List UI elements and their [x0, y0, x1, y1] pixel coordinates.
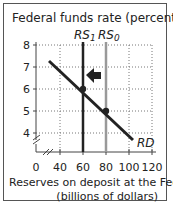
- equilibrium-point-initial: [103, 108, 109, 114]
- chart-title: Federal funds rate (percent): [12, 11, 173, 25]
- equilibrium-point-new: [80, 86, 86, 92]
- svg-text:40: 40: [53, 161, 67, 174]
- svg-text:120: 120: [142, 161, 163, 174]
- axis-break-icon: [33, 135, 53, 155]
- arrow-left-icon: [86, 68, 101, 83]
- rs0-label: RS0: [98, 28, 120, 43]
- svg-text:100: 100: [119, 161, 140, 174]
- svg-text:8: 8: [23, 39, 30, 52]
- svg-text:7: 7: [23, 61, 30, 74]
- rd-label: RD: [137, 136, 155, 150]
- svg-text:80: 80: [99, 161, 113, 174]
- svg-text:5: 5: [23, 105, 30, 118]
- svg-text:60: 60: [76, 161, 90, 174]
- grid-horizontal: [36, 45, 152, 133]
- svg-text:0: 0: [33, 161, 40, 174]
- svg-text:6: 6: [23, 83, 30, 96]
- x-tick-labels: 0 40 60 80 100 120: [33, 161, 163, 174]
- y-tick-labels: 8 7 6 5 4: [23, 39, 30, 140]
- x-axis-units: (billions of dollars): [56, 190, 158, 203]
- svg-text:4: 4: [23, 127, 30, 140]
- chart-svg: Federal funds rate (percent): [0, 0, 173, 205]
- rs1-label: RS1: [74, 28, 96, 43]
- x-axis-label: Reserves on deposit at the Fed: [9, 176, 173, 189]
